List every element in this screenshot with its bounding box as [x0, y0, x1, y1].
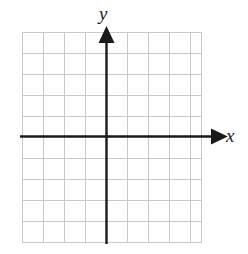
grid-and-axes-graphic: [0, 0, 248, 254]
coordinate-grid-figure: y x: [0, 0, 248, 254]
y-axis-label: y: [99, 4, 107, 23]
x-axis-label: x: [226, 126, 234, 145]
